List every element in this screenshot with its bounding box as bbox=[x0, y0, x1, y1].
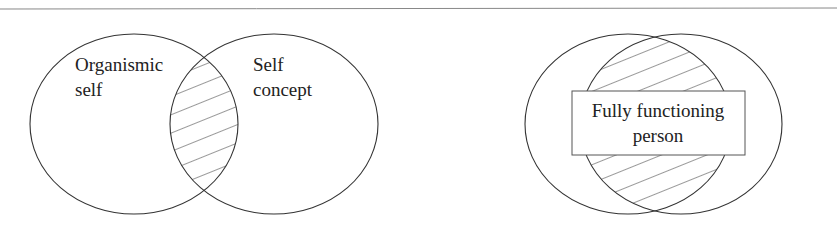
organismic-self-label-line1: Organismic bbox=[75, 54, 163, 75]
incongruence-diagram: Organismic self Self concept bbox=[30, 34, 378, 214]
self-concept-label-line2: concept bbox=[253, 79, 313, 100]
congruence-diagram: Fully functioning person bbox=[525, 34, 782, 214]
self-concept-label-line1: Self bbox=[253, 54, 284, 75]
fully-functioning-label-line1: Fully functioning bbox=[592, 100, 725, 121]
organismic-self-label-line2: self bbox=[75, 79, 103, 100]
figure: Organismic self Self concept Fully funct… bbox=[0, 0, 837, 232]
top-rule bbox=[0, 8, 837, 9]
fully-functioning-label-line2: person bbox=[633, 125, 684, 146]
